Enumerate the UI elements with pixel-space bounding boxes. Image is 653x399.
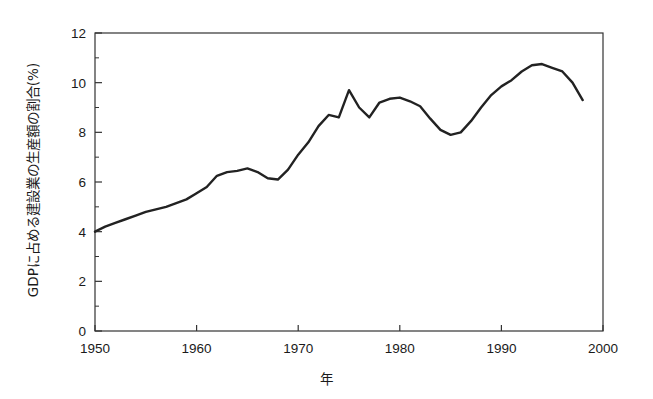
y-axis-major-ticks	[95, 33, 102, 331]
svg-text:2000: 2000	[588, 341, 618, 356]
svg-text:0: 0	[78, 324, 86, 339]
svg-text:1960: 1960	[182, 341, 212, 356]
svg-text:1970: 1970	[283, 341, 313, 356]
y-axis-label: GDPに占める建設業の生産額の割合(%)	[18, 0, 46, 360]
line-chart-svg: 024681012 195019601970198019902000	[0, 0, 653, 399]
svg-text:12: 12	[71, 26, 86, 41]
x-axis-tick-labels: 195019601970198019902000	[80, 341, 618, 356]
x-axis-major-ticks	[95, 325, 603, 331]
x-axis-label-text: 年	[0, 368, 653, 388]
svg-text:1950: 1950	[80, 341, 110, 356]
svg-text:4: 4	[78, 225, 86, 240]
data-line-gdp-construction-share	[95, 64, 583, 232]
svg-text:8: 8	[78, 125, 86, 140]
svg-text:1980: 1980	[385, 341, 415, 356]
y-axis-label-text: GDPに占める建設業の生産額の割合(%)	[22, 63, 42, 297]
svg-text:1990: 1990	[486, 341, 516, 356]
data-series-group	[95, 64, 583, 232]
plot-frame	[95, 33, 603, 331]
plot-area-border	[95, 33, 603, 331]
chart-figure: 024681012 195019601970198019902000 GDPに占…	[0, 0, 653, 399]
y-axis-tick-labels: 024681012	[71, 26, 87, 339]
svg-text:2: 2	[78, 274, 86, 289]
svg-text:10: 10	[71, 76, 86, 91]
svg-text:6: 6	[78, 175, 86, 190]
